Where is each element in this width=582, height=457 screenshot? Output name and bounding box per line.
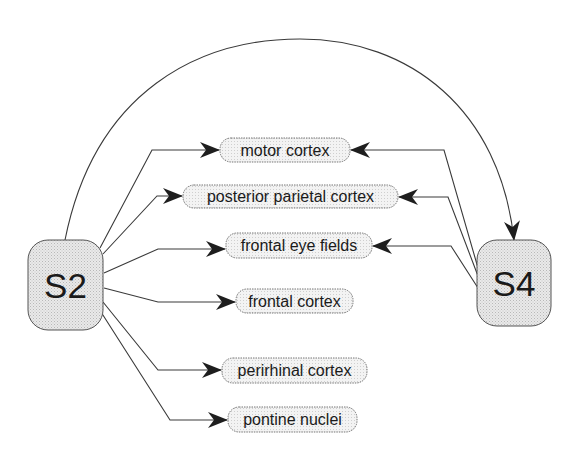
source-node-s2-label: S2 [44,266,87,305]
target-node-frontal-cortex: frontal cortex [236,289,353,313]
target-label-frontal-eye-fields: frontal eye fields [241,237,358,254]
source-node-s2: S2 [28,240,103,330]
edge-s2-to-posterior-parietal-cortex [103,196,182,254]
target-label-motor-cortex: motor cortex [241,142,330,159]
target-label-perirhinal-cortex: perirhinal cortex [238,362,352,379]
edge-s2-to-frontal-eye-fields [104,249,225,273]
source-node-s4-label: S4 [493,264,536,303]
target-label-posterior-parietal-cortex: posterior parietal cortex [207,188,374,205]
edge-s4-to-frontal-eye-fields [373,246,478,288]
edge-s2-to-perirhinal-cortex [103,302,221,370]
edge-s2-to-frontal-cortex [104,288,235,302]
target-node-pontine-nuclei: pontine nuclei [228,407,357,432]
target-node-perirhinal-cortex: perirhinal cortex [222,358,367,383]
target-node-posterior-parietal-cortex: posterior parietal cortex [183,185,398,208]
projection-diagram: S2 S4 motor cortex posterior parietal co… [0,0,582,457]
target-node-frontal-eye-fields: frontal eye fields [226,233,372,258]
edge-s2-to-pontine-nuclei [101,312,227,420]
edge-s4-to-posterior-parietal-cortex [399,197,478,276]
target-node-motor-cortex: motor cortex [220,138,350,162]
source-node-s4: S4 [477,240,551,326]
target-label-pontine-nuclei: pontine nuclei [243,411,342,428]
target-label-frontal-cortex: frontal cortex [248,293,340,310]
